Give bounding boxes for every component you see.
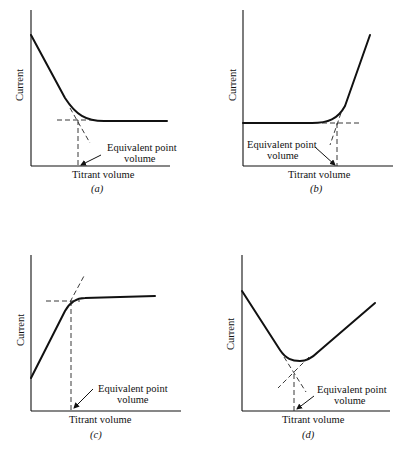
annotation-arrow [297,396,314,409]
panel-c: Equivalent point volume Titrant volume (… [15,255,181,441]
annotation-arrow [315,147,335,165]
panel-d: Equivalent point volume Titrant volume (… [225,255,390,441]
titration-curve [243,35,370,123]
panel-caption: (b) [310,183,323,195]
panel-caption: (d) [302,429,315,441]
annotation-label: Equivalent point [98,383,168,394]
x-axis-label: Titrant volume [69,414,132,425]
annotation-label: Equivalent point [247,139,317,150]
annotation-arrow [81,155,101,165]
amperometric-titration-figure: Equivalent point volume Titrant volume (… [0,0,401,452]
x-axis-label: Titrant volume [72,169,135,180]
panel-a: Equivalent point volume Titrant volume (… [14,10,177,195]
panel-b: Equivalent point volume Titrant volume (… [227,10,393,195]
annotation-label: Equivalent point [317,384,387,395]
annotation-label-line2: volume [267,150,299,161]
y-axis-label: Current [14,69,25,101]
x-axis-label: Titrant volume [282,414,345,425]
extrapolation-line-descending [284,357,306,392]
y-axis-label: Current [225,318,236,350]
annotation-label-line2: volume [117,394,149,405]
annotation-arrow [74,389,93,408]
annotation-label-line2: volume [334,395,366,406]
annotation-label-line2: volume [124,153,156,164]
titration-curve [31,35,167,121]
x-axis-label: Titrant volume [288,169,351,180]
titration-curve [242,291,375,361]
y-axis-label: Current [15,314,26,346]
panel-caption: (c) [90,429,102,441]
panel-caption: (a) [91,183,104,195]
y-axis-label: Current [227,69,238,101]
annotation-label: Equivalent point [107,142,177,153]
titration-curve [31,296,155,378]
extrapolation-tangent [70,108,90,143]
